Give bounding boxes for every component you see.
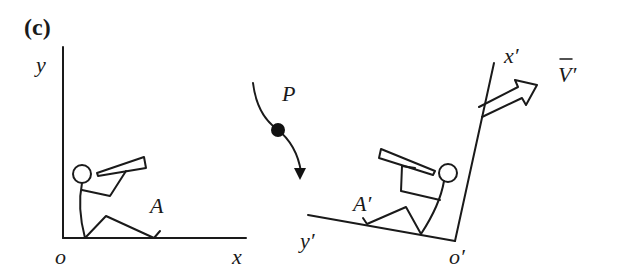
velocity-arrow-icon xyxy=(479,80,537,117)
panel-label: (c) xyxy=(24,14,51,40)
trajectory-arrowhead-icon xyxy=(294,168,306,180)
right-frame: x′ y′ o′ A′ V′ xyxy=(298,43,577,269)
telescope-prime-icon xyxy=(379,149,435,175)
observer-a-figure xyxy=(73,157,160,238)
right-x-axis xyxy=(455,63,494,241)
right-observer-label: A′ xyxy=(351,191,372,216)
observer-a-head xyxy=(73,165,91,183)
right-y-axis-label: y′ xyxy=(298,228,316,253)
observer-a-prime-head xyxy=(439,164,457,182)
left-y-axis-label: y xyxy=(34,52,46,77)
particle-p: P xyxy=(253,81,306,180)
reference-frames-figure: (c) y x o A P x xyxy=(0,0,619,275)
observer-a-prime-body xyxy=(421,181,444,234)
particle-label: P xyxy=(281,81,295,106)
observer-a-prime-figure xyxy=(363,149,457,234)
velocity-label: V′ xyxy=(558,62,577,87)
right-x-axis-label: x′ xyxy=(503,43,520,68)
particle-dot xyxy=(271,123,285,137)
left-origin-label: o xyxy=(55,244,66,269)
left-observer-label: A xyxy=(148,193,164,218)
right-origin-label: o′ xyxy=(449,244,466,269)
left-frame: y x o A xyxy=(34,47,246,269)
right-y-axis xyxy=(308,215,455,241)
observer-a-legs xyxy=(85,216,160,238)
telescope-icon xyxy=(97,157,146,176)
left-x-axis-label: x xyxy=(231,244,242,269)
